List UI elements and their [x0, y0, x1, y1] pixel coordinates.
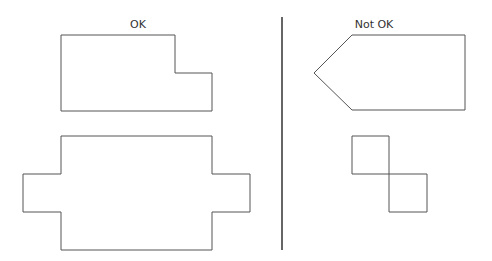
arrow-pentagon: [314, 35, 465, 110]
l-shaped-rectangle: [61, 35, 212, 111]
not-ok-heading: Not OK: [355, 18, 394, 31]
cross-shaped-polygon: [23, 136, 250, 250]
diagonal-squares: [352, 136, 427, 212]
shapes-diagram: OK Not OK: [0, 0, 492, 261]
ok-heading: OK: [130, 18, 147, 31]
